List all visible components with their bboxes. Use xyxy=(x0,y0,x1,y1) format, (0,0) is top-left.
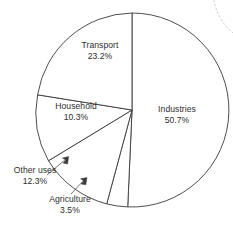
pie-slice-transport[interactable] xyxy=(38,13,132,110)
pie-label-agriculture-value: 3.5% xyxy=(35,205,105,216)
dotted-decoration-line xyxy=(214,0,233,33)
pie-label-industries-value: 50.7% xyxy=(143,115,211,126)
pie-label-transport: Transport 23.2% xyxy=(68,40,132,61)
pie-label-industries: Industries 50.7% xyxy=(143,104,211,125)
pie-label-household-value: 10.3% xyxy=(40,112,112,123)
pie-label-agriculture: Agriculture 3.5% xyxy=(35,194,105,215)
pie-label-industries-name: Industries xyxy=(143,104,211,115)
pie-chart-figure: Transport 23.2% Industries 50.7% Househo… xyxy=(0,0,233,226)
pie-label-transport-name: Transport xyxy=(68,40,132,51)
pie-label-other-uses: Other uses 12.3% xyxy=(2,165,68,186)
pie-label-other-uses-value: 12.3% xyxy=(2,176,68,187)
pie-label-transport-value: 23.2% xyxy=(68,51,132,62)
pie-label-household: Household 10.3% xyxy=(40,101,112,122)
pie-label-agriculture-name: Agriculture xyxy=(35,194,105,205)
pie-label-household-name: Household xyxy=(40,101,112,112)
pie-label-other-uses-name: Other uses xyxy=(2,165,68,176)
